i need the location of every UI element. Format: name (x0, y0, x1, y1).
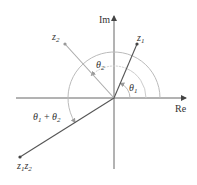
theta2-label: θ2 (96, 59, 105, 72)
theta-sum-label: θ1 + θ2 (33, 111, 61, 124)
theta1-label: θ1 (129, 82, 137, 95)
real-axis-label: Re (175, 103, 187, 114)
complex-plane-diagram: Im Re z1 z2 z1z2 θ2 θ1 θ1 + θ2 (0, 0, 197, 185)
z2-point (63, 42, 66, 45)
z2-label: z2 (51, 31, 60, 44)
z1z2-point (18, 155, 21, 158)
z1z2-label: z1z2 (16, 160, 32, 173)
z1z2-vector (20, 98, 114, 157)
imag-axis-label: Im (99, 14, 110, 25)
